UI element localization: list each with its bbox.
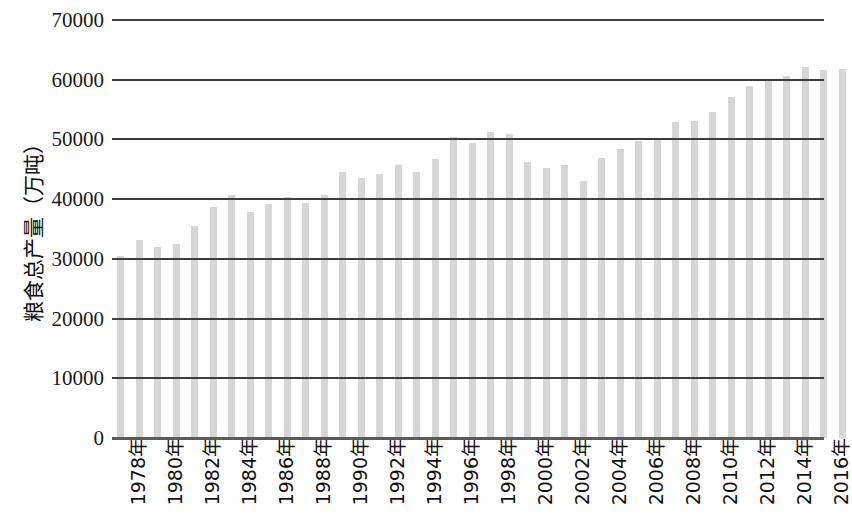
y-tick-label: 40000 [8,189,104,210]
x-tick-label: 1982年 [203,438,222,505]
x-tick-label: 1988年 [314,438,333,505]
x-tick-label: 1994年 [425,438,444,505]
y-tick-label: 20000 [8,309,104,330]
x-tick-label: 2010年 [721,438,740,505]
x-tick-label: 1996年 [462,438,481,505]
x-tick-label: 2006年 [647,438,666,505]
x-tick-label: 1978年 [129,438,148,505]
gridline [112,138,824,140]
x-tick-label: 1992年 [388,438,407,505]
x-tick-label: 1980年 [166,438,185,505]
gridline [112,79,824,81]
x-axis-line [112,437,824,440]
x-tick-label: 1984年 [240,438,259,505]
x-tick-label: 2014年 [795,438,814,505]
gridline [112,258,824,260]
y-tick-label: 0 [8,428,104,449]
x-tick-label: 2002年 [573,438,592,505]
x-tick-label: 2012年 [758,438,777,505]
y-tick-label: 10000 [8,368,104,389]
gridline [112,19,824,21]
gridlines-layer [112,20,824,438]
x-axis-tick-labels: 1978年1980年1982年1984年1986年1988年1990年1992年… [112,438,824,519]
y-tick-label: 50000 [8,129,104,150]
gridline [112,198,824,200]
y-axis-tick-labels: 700006000050000400003000020000100000 [0,0,104,519]
x-tick-label: 2008年 [684,438,703,505]
gridline [112,318,824,320]
x-tick-label: 1990年 [351,438,370,505]
x-tick-label: 2004年 [610,438,629,505]
x-tick-label: 1998年 [499,438,518,505]
y-tick-label: 30000 [8,249,104,270]
gridline [112,377,824,379]
y-tick-label: 60000 [8,70,104,91]
x-tick-label: 2000年 [536,438,555,505]
bar [839,69,846,438]
plot-area [112,20,824,438]
y-tick-label: 70000 [8,10,104,31]
x-tick-label: 2016年 [832,438,851,505]
x-tick-label: 1986年 [277,438,296,505]
